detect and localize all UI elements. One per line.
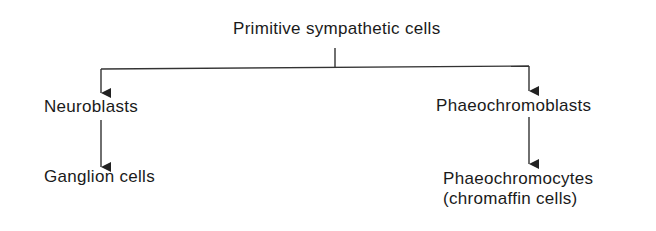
phaeochromoblasts-label: Phaeochromoblasts: [436, 96, 591, 116]
root-node-label: Primitive sympathetic cells: [233, 19, 440, 39]
neuroblasts-label: Neuroblasts: [44, 97, 138, 117]
chromaffin-cells-sublabel: (chromaffin cells): [443, 189, 578, 209]
ganglion-cells-label: Ganglion cells: [44, 167, 155, 187]
branch-bar-line: [101, 66, 529, 69]
phaeochromocytes-label: Phaeochromocytes: [443, 169, 593, 189]
diagram-canvas: Primitive sympathetic cells Neuroblasts …: [0, 0, 656, 231]
